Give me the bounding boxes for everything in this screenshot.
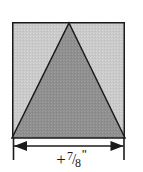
geometry-figure: +7/8" <box>0 0 143 172</box>
plus-sign: + <box>56 150 66 169</box>
width-dimension-label: +7/8" <box>0 147 143 172</box>
fraction-denominator: 8 <box>75 156 81 170</box>
fraction-seven-eighths: 7/8 <box>67 147 81 172</box>
inch-mark: " <box>82 147 87 162</box>
